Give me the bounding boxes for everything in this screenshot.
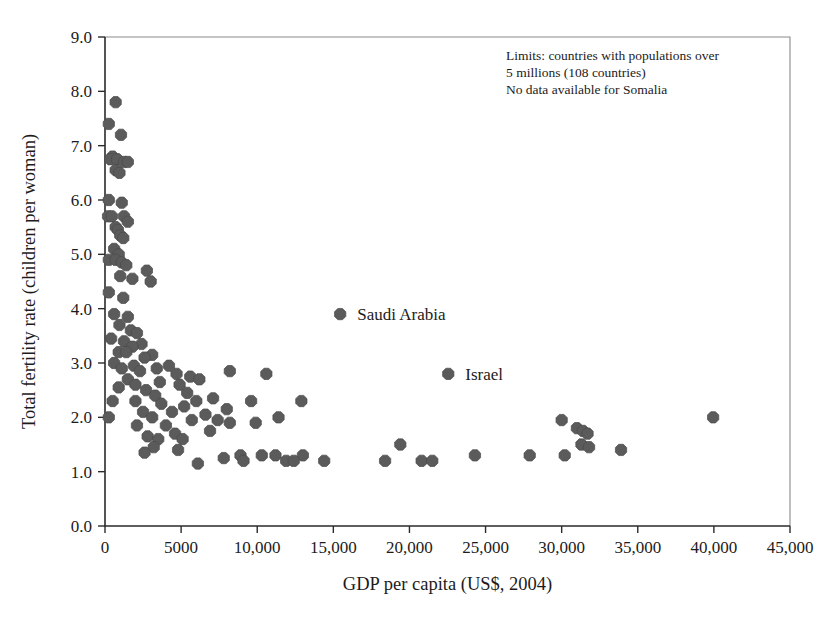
data-point	[582, 428, 593, 439]
data-point	[296, 395, 307, 406]
data-point	[204, 425, 215, 436]
data-point	[139, 447, 150, 458]
data-point	[224, 417, 235, 428]
data-point	[113, 382, 124, 393]
data-point	[238, 455, 249, 466]
data-point	[288, 455, 299, 466]
x-tick-label: 40,000	[691, 538, 738, 557]
data-point	[270, 450, 281, 461]
data-point	[122, 216, 133, 227]
annotation-line: No data available for Somalia	[506, 82, 667, 97]
x-tick-label: 15,000	[310, 538, 357, 557]
data-point	[121, 260, 132, 271]
data-point	[218, 452, 229, 463]
x-tick-label: 20,000	[386, 538, 433, 557]
data-point	[115, 129, 126, 140]
data-point	[154, 376, 165, 387]
data-point	[186, 414, 197, 425]
labeled-data-point-marker	[443, 368, 454, 379]
data-point	[427, 455, 438, 466]
data-point-label: Israel	[465, 365, 503, 384]
data-point	[221, 404, 232, 415]
data-point	[416, 455, 427, 466]
data-point	[122, 311, 133, 322]
data-point	[141, 265, 152, 276]
data-point	[160, 420, 171, 431]
y-tick-label: 7.0	[71, 137, 92, 156]
annotation-line: Limits: countries with populations over	[506, 48, 719, 63]
data-point	[469, 450, 480, 461]
x-tick-label: 35,000	[614, 538, 661, 557]
x-tick-label: 0	[101, 538, 110, 557]
data-point	[130, 379, 141, 390]
data-point	[116, 197, 127, 208]
chart-canvas: 0500010,00015,00020,00025,00030,00035,00…	[0, 0, 832, 618]
data-point	[105, 333, 116, 344]
data-point	[192, 458, 203, 469]
data-point	[145, 276, 156, 287]
data-point	[109, 308, 120, 319]
y-axis-title: Total fertility rate (children per woman…	[19, 134, 40, 429]
data-point	[122, 156, 133, 167]
y-tick-label: 6.0	[71, 191, 92, 210]
data-point-label: Saudi Arabia	[357, 305, 446, 324]
data-point	[559, 450, 570, 461]
data-point	[121, 347, 132, 358]
data-point	[200, 409, 211, 420]
data-point	[116, 363, 127, 374]
y-tick-label: 8.0	[71, 82, 92, 101]
y-tick-label: 5.0	[71, 245, 92, 264]
y-tick-label: 0.0	[71, 517, 92, 536]
y-tick-label: 1.0	[71, 463, 92, 482]
data-point	[246, 395, 257, 406]
data-point	[273, 412, 284, 423]
data-point	[118, 232, 129, 243]
data-point	[379, 455, 390, 466]
data-point	[166, 406, 177, 417]
y-tick-label: 2.0	[71, 408, 92, 427]
y-tick-label: 3.0	[71, 354, 92, 373]
data-point	[172, 444, 183, 455]
data-point	[107, 395, 118, 406]
data-point	[130, 395, 141, 406]
data-point	[131, 327, 142, 338]
x-tick-label: 30,000	[538, 538, 585, 557]
x-tick-label: 45,000	[767, 538, 814, 557]
annotation-line: 5 millions (108 countries)	[506, 65, 646, 80]
scatter-plot-figure: 0500010,00015,00020,00025,00030,00035,00…	[0, 0, 832, 618]
data-point	[131, 420, 142, 431]
data-point	[106, 211, 117, 222]
data-point	[615, 444, 626, 455]
data-point	[103, 194, 114, 205]
data-point	[142, 431, 153, 442]
data-point	[110, 97, 121, 108]
data-point	[524, 450, 535, 461]
data-point	[147, 412, 158, 423]
data-point	[250, 417, 261, 428]
data-point	[179, 401, 190, 412]
data-point	[139, 352, 150, 363]
data-point	[194, 374, 205, 385]
data-point	[212, 414, 223, 425]
data-point	[207, 393, 218, 404]
x-tick-label: 10,000	[234, 538, 281, 557]
data-point	[261, 368, 272, 379]
data-point	[127, 273, 138, 284]
data-point	[224, 366, 235, 377]
data-point	[556, 414, 567, 425]
data-point	[583, 442, 594, 453]
labeled-data-point-marker	[335, 308, 346, 319]
data-point	[319, 455, 330, 466]
data-point	[115, 270, 126, 281]
data-point	[103, 287, 114, 298]
x-tick-label: 25,000	[462, 538, 509, 557]
y-tick-label: 4.0	[71, 300, 92, 319]
data-point	[707, 412, 718, 423]
data-point	[156, 398, 167, 409]
data-point	[177, 433, 188, 444]
data-point	[171, 368, 182, 379]
data-point	[118, 292, 129, 303]
data-point	[182, 387, 193, 398]
y-tick-label: 9.0	[71, 28, 92, 47]
data-point	[191, 395, 202, 406]
